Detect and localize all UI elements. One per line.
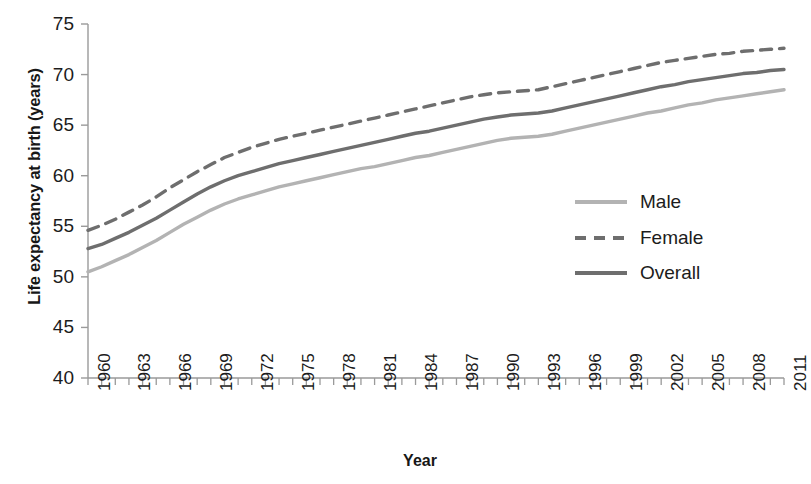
x-tick-label: 1990 (504, 353, 524, 391)
y-tick-label: 65 (30, 114, 74, 136)
y-tick-label: 45 (30, 316, 74, 338)
x-tick-label: 1984 (422, 353, 442, 391)
legend-label-male: Male (640, 191, 681, 213)
x-tick-label: 1966 (176, 353, 196, 391)
series-line-overall (88, 70, 784, 249)
x-tick-label: 1993 (545, 353, 565, 391)
x-tick-label: 2008 (750, 353, 770, 391)
x-tick-label: 1960 (95, 353, 115, 391)
x-tick-label: 1981 (381, 353, 401, 391)
y-tick-label: 75 (30, 13, 74, 35)
x-tick-label: 1999 (627, 353, 647, 391)
x-tick-label: 2011 (791, 354, 811, 391)
y-tick-label: 60 (30, 165, 74, 187)
x-tick-label: 2002 (668, 353, 688, 391)
x-tick-label: 1969 (217, 353, 237, 391)
x-tick-label: 1963 (135, 353, 155, 391)
x-tick-label: 1996 (586, 353, 606, 391)
y-tick-label: 50 (30, 266, 74, 288)
y-tick-label: 70 (30, 64, 74, 86)
x-tick-label: 1972 (258, 353, 278, 391)
legend-label-overall: Overall (640, 262, 700, 284)
x-tick-label: 1987 (463, 353, 483, 391)
x-tick-label: 2005 (709, 353, 729, 391)
y-tick-label: 40 (30, 367, 74, 389)
x-tick-label: 1975 (299, 353, 319, 391)
x-tick-label: 1978 (340, 353, 360, 391)
y-tick-label: 55 (30, 215, 74, 237)
legend-label-female: Female (640, 227, 703, 249)
